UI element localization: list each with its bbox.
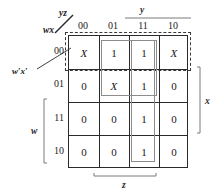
kmap-cell-r0-c1[interactable]: 1 (99, 36, 129, 69)
column-header-10: 10 (158, 20, 188, 31)
karnaugh-map-diagram: yz wx 00 01 11 10 00 01 11 10 w′x′ X 1 1… (0, 0, 216, 194)
annotation-label-w-prime-x-prime: w′x′ (12, 66, 28, 76)
kmap-cell-r0-c0[interactable]: X (69, 36, 99, 69)
kmap-cell-r3-c2[interactable]: 1 (129, 135, 159, 169)
bracket-w (40, 98, 48, 164)
kmap-cell-r1-c3[interactable]: 0 (159, 69, 189, 102)
column-header-00: 00 (68, 20, 98, 31)
column-header-11: 11 (128, 20, 158, 31)
bracket-x (196, 66, 204, 134)
kmap-cell-r3-c1[interactable]: 0 (99, 135, 129, 169)
kmap-cell-r1-c0[interactable]: 0 (69, 69, 99, 102)
row-header-01: 01 (42, 78, 64, 89)
bracket-label-w: w (31, 126, 37, 136)
bracket-label-z: z (122, 180, 126, 190)
kmap-cell-r0-c2[interactable]: 1 (129, 36, 159, 69)
kmap-cell-r1-c2[interactable]: 1 (129, 69, 159, 102)
kmap-cell-r2-c2[interactable]: 1 (129, 102, 159, 135)
bracket-y (124, 15, 192, 21)
kmap-cell-r2-c1[interactable]: 0 (99, 102, 129, 135)
kmap-cell-r2-c3[interactable]: 0 (159, 102, 189, 135)
kmap-cell-r2-c0[interactable]: 0 (69, 102, 99, 135)
kmap-grid: X 1 1 X 0 X 1 0 0 0 1 0 0 0 1 0 (68, 35, 188, 168)
kmap-cell-r3-c3[interactable]: 0 (159, 135, 189, 169)
bracket-z (93, 172, 157, 180)
column-header-01: 01 (98, 20, 128, 31)
kmap-cell-r0-c3[interactable]: X (159, 36, 189, 69)
annotation-arrow-w-prime-x-prime (36, 46, 72, 70)
bracket-label-y: y (140, 5, 144, 15)
axis-label-wx: wx (43, 25, 54, 35)
kmap-cell-r3-c0[interactable]: 0 (69, 135, 99, 169)
bracket-label-x: x (205, 96, 210, 106)
kmap-cell-r1-c1[interactable]: X (99, 69, 129, 102)
